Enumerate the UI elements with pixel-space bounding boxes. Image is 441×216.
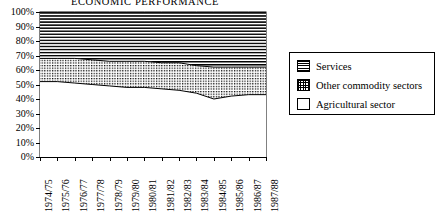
legend-label-services: Services (316, 61, 352, 72)
legend-swatch-agricultural-sector-icon (297, 98, 310, 110)
legend-label-agricultural-sector: Agricultural sector (316, 99, 395, 110)
x-axis-tick-label: 1987/88 (270, 179, 280, 212)
x-axis-tick-label: 1982/83 (183, 179, 193, 212)
x-axis-tick-label: 1978/79 (114, 179, 124, 212)
x-axis-tick-label: 1977/78 (96, 179, 106, 212)
x-axis-tick-label: 1975/76 (61, 179, 71, 212)
x-axis-tick-label: 1974/75 (44, 179, 54, 212)
x-axis-tick-label: 1981/82 (166, 179, 176, 212)
legend-swatch-other-commodity-sectors-icon (297, 79, 310, 91)
x-axis-tick-label: 1985/86 (235, 179, 245, 212)
x-axis-tick-label: 1986/87 (253, 179, 263, 212)
chart-legend: Services Other commodity sectors Agricul… (289, 52, 435, 115)
x-axis-tick-label: 1980/81 (148, 179, 158, 212)
x-axis-tick-label: 1976/77 (79, 179, 89, 212)
legend-item-other-commodity-sectors: Other commodity sectors (297, 77, 422, 93)
economic-performance-chart: ECONOMIC PERFORMANCE 100%90%80%70%60%50%… (0, 0, 441, 216)
legend-item-services: Services (297, 58, 352, 74)
legend-swatch-services-icon (297, 60, 310, 72)
legend-item-agricultural-sector: Agricultural sector (297, 96, 395, 112)
legend-label-other-commodity-sectors: Other commodity sectors (316, 80, 422, 91)
x-axis-tick-label: 1984/85 (218, 179, 228, 212)
x-axis-tick-label: 1979/80 (131, 179, 141, 212)
x-axis-tick-label: 1983/84 (200, 179, 210, 212)
